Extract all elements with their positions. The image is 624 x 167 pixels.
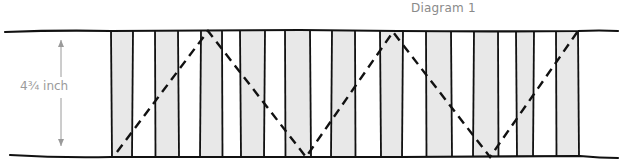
- stripe-line: [285, 31, 286, 157]
- stripe-line: [402, 31, 403, 157]
- arrow-up-icon: [58, 40, 64, 47]
- stripe-line: [578, 31, 579, 157]
- stripe-line: [556, 31, 557, 157]
- shaded-stripe: [426, 31, 451, 157]
- shaded-stripe: [201, 31, 222, 157]
- shaded-stripe: [474, 31, 498, 157]
- stripe-line: [155, 31, 156, 157]
- stripe-line: [310, 31, 311, 157]
- shaded-stripe: [516, 31, 534, 157]
- shaded-stripe: [380, 31, 403, 157]
- top-edge-line: [5, 30, 618, 32]
- shaded-stripe: [285, 31, 310, 157]
- stripe-line: [331, 31, 332, 157]
- stripe-line: [178, 31, 179, 157]
- shaded-stripes: [111, 31, 578, 157]
- arrow-down-icon: [58, 139, 64, 146]
- stripe-line: [111, 31, 112, 157]
- stripe-zigzag-diagram: [0, 0, 624, 167]
- stripe-line: [355, 31, 356, 157]
- stripe-line: [132, 31, 133, 157]
- stripe-line: [473, 31, 474, 157]
- shaded-stripe: [155, 31, 178, 157]
- bottom-edge-line: [10, 155, 618, 158]
- diagram-title: Diagram 1: [411, 1, 476, 15]
- stripe-line: [240, 31, 241, 157]
- stripe-line: [222, 31, 223, 157]
- stripe-line: [516, 31, 517, 157]
- stripe-line: [264, 31, 265, 157]
- stripe-line: [426, 31, 427, 157]
- stripe-line: [451, 31, 452, 157]
- shaded-stripe: [332, 31, 355, 157]
- shaded-stripe: [556, 31, 578, 157]
- dimension-label: 4¾ inch: [20, 77, 68, 95]
- stripe-line: [200, 31, 201, 157]
- shaded-stripe: [240, 31, 265, 157]
- shaded-stripe: [111, 31, 133, 157]
- stripe-line: [498, 31, 499, 157]
